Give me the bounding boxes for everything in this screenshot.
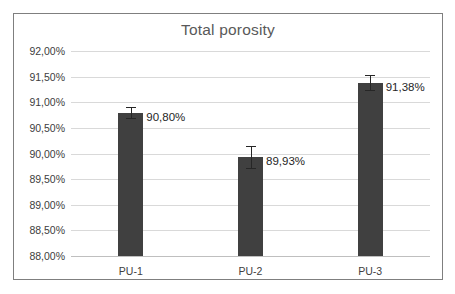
error-bar — [251, 146, 252, 168]
error-bar-cap-upper — [246, 146, 256, 147]
bar-value-label: 89,93% — [266, 155, 305, 167]
error-bar — [370, 75, 371, 90]
error-bar — [131, 107, 132, 117]
chart-container: Total porosity 88,00%88,50%89,00%89,50%9… — [13, 13, 443, 280]
y-axis-tick-label: 89,50% — [29, 173, 65, 185]
bar[interactable] — [238, 157, 263, 256]
gridline — [71, 51, 430, 52]
y-axis-tick-label: 92,00% — [29, 45, 65, 57]
plot-area: 88,00%88,50%89,00%89,50%90,00%90,50%91,0… — [71, 51, 430, 256]
error-bar-cap-upper — [126, 107, 136, 108]
error-bar-cap-lower — [126, 118, 136, 119]
error-bar-cap-upper — [365, 75, 375, 76]
y-axis-tick-label: 91,00% — [29, 96, 65, 108]
x-axis-tick-label: PU-2 — [239, 265, 263, 277]
y-axis-tick-label: 90,00% — [29, 148, 65, 160]
y-axis-tick-label: 89,00% — [29, 199, 65, 211]
y-axis-tick-label: 88,00% — [29, 250, 65, 262]
bar-value-label: 90,80% — [146, 111, 185, 123]
y-axis-tick-label: 90,50% — [29, 122, 65, 134]
bar[interactable] — [118, 113, 143, 257]
x-axis-tick-label: PU-3 — [358, 265, 382, 277]
chart-title: Total porosity — [14, 21, 442, 39]
gridline — [71, 256, 430, 257]
error-bar-cap-lower — [246, 168, 256, 169]
bar-value-label: 91,38% — [386, 81, 425, 93]
y-axis-tick-label: 91,50% — [29, 71, 65, 83]
y-axis-tick-label: 88,50% — [29, 224, 65, 236]
gridline — [71, 77, 430, 78]
x-axis-tick-label: PU-1 — [119, 265, 143, 277]
bar[interactable] — [358, 83, 383, 256]
error-bar-cap-lower — [365, 90, 375, 91]
